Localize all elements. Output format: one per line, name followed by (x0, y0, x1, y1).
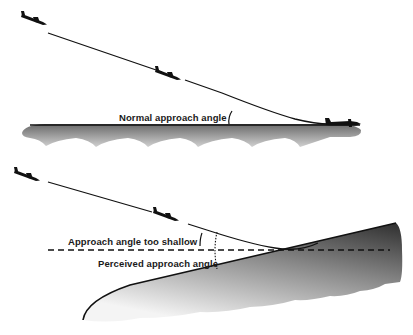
shallow-angle-arc (200, 233, 202, 246)
normal-approach-path (48, 33, 330, 124)
aircraft-icon (14, 167, 40, 181)
flat-runway-ground (22, 124, 361, 147)
aircraft-icon (153, 207, 179, 221)
perceived-angle-label: Perceived approach angle (98, 258, 218, 269)
normal-approach-label: Normal approach angle (119, 112, 227, 123)
too-shallow-label: Approach angle too shallow (68, 236, 197, 247)
aircraft-icon (21, 11, 47, 25)
aircraft-icon (155, 66, 181, 80)
normal-angle-arc (229, 111, 232, 124)
approach-angle-diagram (0, 0, 413, 335)
normal-approach-panel (21, 11, 361, 147)
